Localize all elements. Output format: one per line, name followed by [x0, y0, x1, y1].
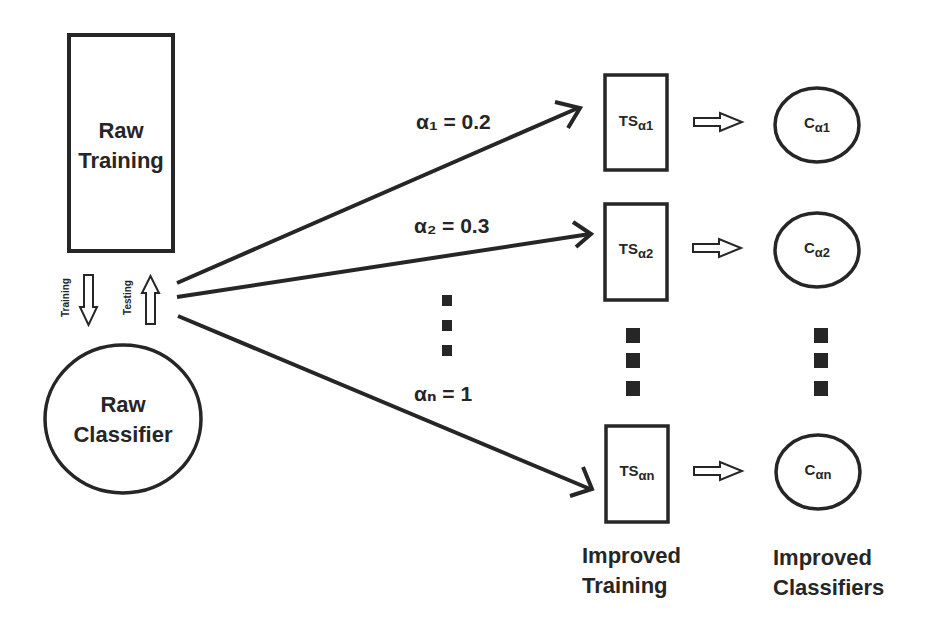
testing-flow-label: Testing: [122, 273, 133, 323]
dot-icon: [814, 328, 828, 343]
classifier-subscript: α1: [815, 120, 830, 135]
classifier-base: C: [805, 461, 816, 478]
ts-base: TS: [619, 462, 638, 479]
training-flow-label: Training: [60, 273, 71, 323]
training-down-arrow-icon: [80, 275, 97, 325]
improved-training-line2: Training: [582, 571, 681, 601]
improved-classifiers-label: Improved Classifiers: [773, 543, 884, 603]
right-arrow-icon-n: [694, 462, 742, 480]
classifier-label-1: Cα1: [775, 114, 859, 135]
dot-icon: [814, 353, 828, 368]
alpha-label-1: α₁ = 0.2: [416, 110, 491, 134]
ts-subscript: α2: [638, 246, 653, 261]
classifier-base: C: [804, 114, 815, 131]
testing-up-arrow-icon: [142, 276, 159, 324]
ts-base: TS: [619, 112, 638, 129]
classifier-subscript: α2: [815, 245, 830, 260]
dot-icon: [626, 353, 640, 368]
raw-training-line2: Training: [69, 146, 173, 176]
dot-icon: [442, 345, 452, 356]
arrow-alpha-1: [177, 102, 580, 283]
dot-icon: [442, 295, 452, 306]
raw-classifier-line1: Raw: [45, 390, 201, 420]
classifier-base: C: [804, 239, 815, 256]
dot-icon: [626, 381, 640, 396]
improved-classifiers-line2: Classifiers: [773, 573, 884, 603]
right-arrow-icon-2: [693, 239, 741, 257]
alpha-label-n: αₙ = 1: [414, 382, 472, 406]
ellipsis-dots: [442, 295, 828, 396]
dot-icon: [442, 320, 452, 331]
arrow-alpha-n: [178, 316, 592, 496]
right-arrow-icon-1: [694, 113, 742, 131]
raw-training-label: Raw Training: [69, 116, 173, 176]
alpha-label-2: α₂ = 0.3: [414, 214, 489, 238]
raw-classifier-line2: Classifier: [45, 420, 201, 450]
raw-training-line1: Raw: [69, 116, 173, 146]
ts-label-n: TSαn: [606, 462, 668, 483]
dot-icon: [626, 328, 640, 343]
raw-classifier-label: Raw Classifier: [45, 390, 201, 450]
improved-training-label: Improved Training: [582, 541, 681, 601]
arrow-alpha-2: [177, 222, 591, 297]
ts-label-1: TSα1: [605, 112, 667, 133]
classifier-subscript: αn: [815, 467, 831, 482]
ts-subscript: α1: [638, 118, 653, 133]
improved-training-line1: Improved: [582, 541, 681, 571]
classifier-label-n: Cαn: [776, 461, 860, 482]
classifier-label-2: Cα2: [775, 239, 859, 260]
ts-base: TS: [619, 240, 638, 257]
improved-classifiers-line1: Improved: [773, 543, 884, 573]
ts-label-2: TSα2: [605, 240, 667, 261]
dot-icon: [814, 381, 828, 396]
ts-subscript: αn: [639, 468, 655, 483]
